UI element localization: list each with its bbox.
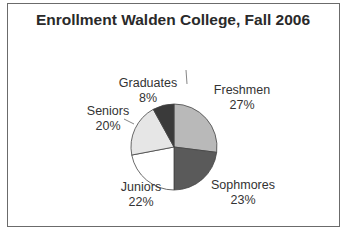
label-graduates: Graduates 8% [110,76,186,106]
label-juniors: Juniors 22% [106,180,176,210]
seniors-pct: 20% [78,119,138,134]
freshmen-name: Freshmen [203,83,281,98]
graduates-leader-line [186,70,187,84]
juniors-pct: 22% [106,195,176,210]
juniors-name: Juniors [106,180,176,195]
sophmores-name: Sophmores [198,178,288,193]
graduates-name: Graduates [110,76,186,91]
freshmen-pct: 27% [203,98,281,113]
label-seniors: Seniors 20% [78,104,138,134]
label-sophmores: Sophmores 23% [198,178,288,208]
sophmores-pct: 23% [198,193,288,208]
seniors-name: Seniors [78,104,138,119]
label-freshmen: Freshmen 27% [203,83,281,113]
